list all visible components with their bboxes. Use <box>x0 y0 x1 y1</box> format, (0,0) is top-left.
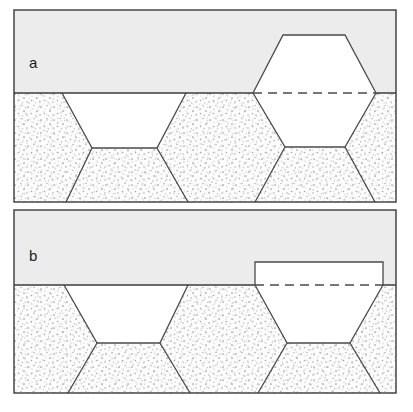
panel-a-label: a <box>29 54 38 71</box>
cross-section-diagram: a <box>0 0 413 412</box>
panel-b: b <box>14 210 396 393</box>
panel-b-label: b <box>29 247 37 264</box>
panel-b-raised-block <box>255 262 383 285</box>
panel-a: a <box>14 10 396 202</box>
figure-container: a <box>0 0 413 412</box>
